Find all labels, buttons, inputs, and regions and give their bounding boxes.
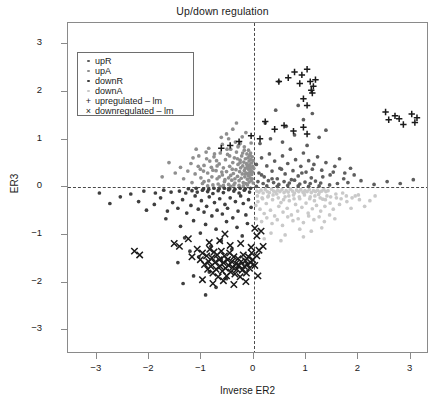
x-tick <box>253 353 254 359</box>
legend-label: upR <box>95 56 112 66</box>
series-upr <box>255 80 416 188</box>
legend: upRupAdownRdownA+upregulated – lm×downre… <box>77 52 194 116</box>
dot-icon <box>87 90 90 93</box>
legend-item: upR <box>78 56 193 66</box>
x-tick-label: 0 <box>238 362 268 373</box>
x-tick <box>200 353 201 359</box>
x-tick <box>357 353 358 359</box>
x-tick-label: 3 <box>395 362 425 373</box>
legend-item: upA <box>78 66 193 76</box>
x-tick <box>148 353 149 359</box>
y-axis-label: ER3 <box>9 144 20 224</box>
dot-icon <box>87 80 90 83</box>
y-tick <box>61 43 67 44</box>
y-tick <box>61 329 67 330</box>
x-tick <box>96 353 97 359</box>
dot-icon <box>87 70 90 73</box>
y-tick <box>61 234 67 235</box>
x-tick-label: −2 <box>133 362 163 373</box>
legend-label: downregulated – lm <box>95 106 174 116</box>
legend-plus-icon: + <box>82 97 95 106</box>
legend-dot-icon <box>82 67 95 76</box>
y-tick-label: 0 <box>0 179 42 190</box>
x-tick-label: −1 <box>185 362 215 373</box>
y-tick-label: −1 <box>0 227 42 238</box>
scatter-plot-figure: Up/down regulation upRupAdownRdownA+upre… <box>0 0 445 414</box>
y-tick-label: −2 <box>0 275 42 286</box>
legend-dot-icon <box>82 57 95 66</box>
legend-label: upA <box>95 66 111 76</box>
x-tick <box>410 353 411 359</box>
x-tick-label: −3 <box>81 362 111 373</box>
y-tick <box>61 139 67 140</box>
y-tick-label: −3 <box>0 322 42 333</box>
legend-item: +upregulated – lm <box>78 96 193 106</box>
legend-item: downA <box>78 86 193 96</box>
chart-title: Up/down regulation <box>0 5 445 17</box>
y-tick-label: 3 <box>0 36 42 47</box>
legend-label: downR <box>95 76 123 86</box>
legend-cross-icon: × <box>82 107 95 116</box>
y-tick-label: 1 <box>0 132 42 143</box>
y-tick <box>61 186 67 187</box>
x-tick-label: 2 <box>342 362 372 373</box>
legend-label: downA <box>95 86 123 96</box>
series-upa <box>160 121 255 188</box>
legend-dot-icon <box>82 87 95 96</box>
legend-label: upregulated – lm <box>95 96 162 106</box>
legend-item: downR <box>78 76 193 86</box>
x-axis-label: Inverse ER2 <box>67 385 428 396</box>
legend-dot-icon <box>82 77 95 86</box>
legend-item: ×downregulated – lm <box>78 106 193 116</box>
x-tick <box>305 353 306 359</box>
dot-icon <box>87 60 90 63</box>
series-downa <box>254 187 377 242</box>
plot-area: upRupAdownRdownA+upregulated – lm×downre… <box>67 22 428 353</box>
x-tick-label: 1 <box>290 362 320 373</box>
y-tick-label: 2 <box>0 84 42 95</box>
y-tick <box>61 282 67 283</box>
y-tick <box>61 91 67 92</box>
